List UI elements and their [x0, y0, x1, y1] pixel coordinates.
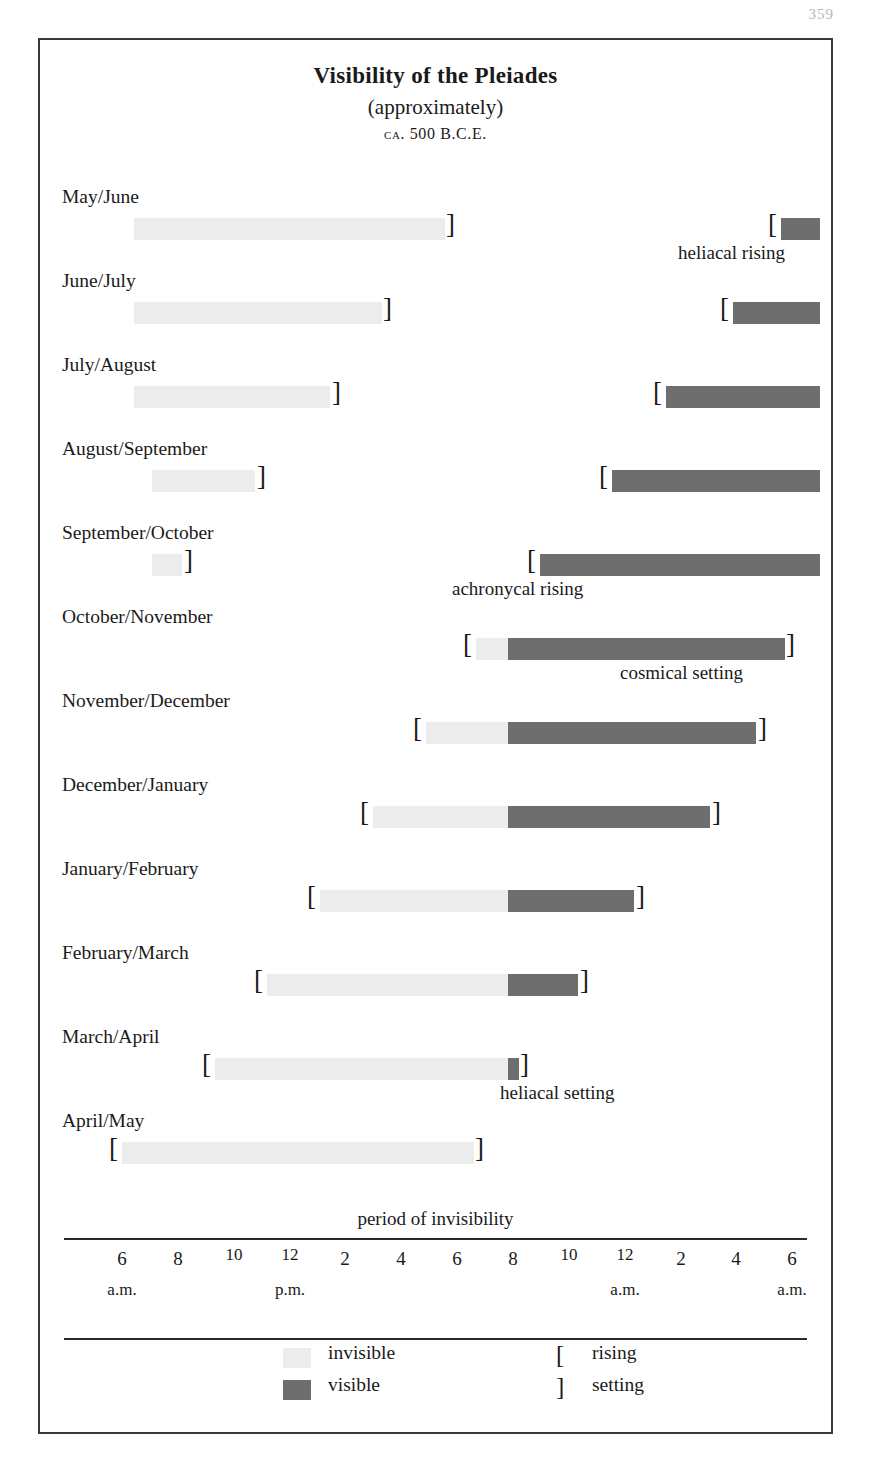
- row-label: November/December: [62, 690, 230, 712]
- plot-area: May/June][heliacal risingJune/July][July…: [40, 186, 831, 1230]
- bar-track: []: [40, 636, 831, 662]
- axis-tick-label: 2: [340, 1248, 350, 1270]
- bar-segment-invisible: [152, 470, 255, 492]
- chart-row: June/July][: [40, 270, 831, 352]
- chart-row: August/September][: [40, 438, 831, 520]
- axis-tick-label: 6: [117, 1248, 127, 1270]
- axis-period-label: p.m.: [275, 1280, 305, 1300]
- setting-bracket: ]: [758, 715, 767, 741]
- row-label: July/August: [62, 354, 156, 376]
- rising-bracket: [: [109, 1135, 118, 1161]
- chart-row: December/January[]: [40, 774, 831, 856]
- row-label: April/May: [62, 1110, 144, 1132]
- legend-swatch-invisible: [283, 1348, 311, 1368]
- chart-subtitle: (approximately): [40, 93, 831, 121]
- rising-bracket: [: [768, 211, 777, 237]
- legend-bracket-rising: [: [556, 1345, 564, 1365]
- chart-row: May/June][heliacal rising: [40, 186, 831, 268]
- row-label: June/July: [62, 270, 136, 292]
- bar-track: ][: [40, 552, 831, 578]
- rising-bracket: [: [720, 295, 729, 321]
- legend: invisible visible [ rising ] setting: [40, 1342, 831, 1422]
- rising-bracket: [: [202, 1051, 211, 1077]
- legend-label-rising: rising: [592, 1342, 636, 1364]
- axis-period-label: a.m.: [107, 1280, 136, 1300]
- bar-segment-visible: [508, 722, 756, 744]
- axis-tick-label: 12: [617, 1245, 634, 1265]
- axis-tick-label: 12: [282, 1245, 299, 1265]
- bar-segment-visible: [666, 386, 820, 408]
- chart-row: November/December[]: [40, 690, 831, 772]
- setting-bracket: ]: [580, 967, 589, 993]
- row-annotation: heliacal rising: [678, 242, 785, 264]
- row-label: January/February: [62, 858, 198, 880]
- bar-segment-invisible: [134, 302, 382, 324]
- setting-bracket: ]: [184, 547, 193, 573]
- setting-bracket: ]: [383, 295, 392, 321]
- chart-row: April/May[]: [40, 1110, 831, 1192]
- bar-segment-invisible: [152, 554, 182, 576]
- row-annotation: cosmical setting: [620, 662, 743, 684]
- setting-bracket: ]: [257, 463, 266, 489]
- row-annotation: achronycal rising: [452, 578, 583, 600]
- axis-tick-label: 8: [173, 1248, 183, 1270]
- bar-track: ][: [40, 300, 831, 326]
- bar-segment-visible: [733, 302, 820, 324]
- legend-label-visible: visible: [328, 1374, 380, 1396]
- row-annotation: heliacal setting: [500, 1082, 614, 1104]
- bar-track: ][: [40, 384, 831, 410]
- chart-row: March/April[]heliacal setting: [40, 1026, 831, 1108]
- bar-segment-visible: [540, 554, 820, 576]
- row-label: May/June: [62, 186, 139, 208]
- legend-swatch-visible: [283, 1380, 311, 1400]
- bar-segment-visible: [508, 890, 634, 912]
- bar-segment-visible: [508, 1058, 519, 1080]
- axis-tick-label: 10: [226, 1245, 243, 1265]
- bar-segment-invisible: [373, 806, 508, 828]
- legend-bracket-setting: ]: [556, 1377, 564, 1397]
- chart-row: January/February[]: [40, 858, 831, 940]
- row-label: December/January: [62, 774, 208, 796]
- chart-row: September/October][achronycal rising: [40, 522, 831, 604]
- bar-track: []: [40, 720, 831, 746]
- row-label: September/October: [62, 522, 214, 544]
- row-label: August/September: [62, 438, 207, 460]
- chart-row: July/August][: [40, 354, 831, 436]
- axis-tick-label: 6: [452, 1248, 462, 1270]
- rising-bracket: [: [463, 631, 472, 657]
- bar-segment-invisible: [122, 1142, 474, 1164]
- axis-note: period of invisibility: [40, 1208, 831, 1230]
- bar-segment-invisible: [134, 218, 445, 240]
- bar-track: []: [40, 804, 831, 830]
- bar-track: ][: [40, 216, 831, 242]
- bar-segment-visible: [612, 470, 820, 492]
- rising-bracket: [: [653, 379, 662, 405]
- rising-bracket: [: [527, 547, 536, 573]
- bar-track: ][: [40, 468, 831, 494]
- rising-bracket: [: [307, 883, 316, 909]
- bar-segment-invisible: [426, 722, 508, 744]
- rising-bracket: [: [599, 463, 608, 489]
- title-block: Visibility of the Pleiades (approximatel…: [40, 40, 831, 143]
- figure-frame: Visibility of the Pleiades (approximatel…: [38, 38, 833, 1434]
- chart-date: ca. 500 B.C.E.: [40, 125, 831, 143]
- rising-bracket: [: [360, 799, 369, 825]
- axis-tick-label: 2: [676, 1248, 686, 1270]
- bar-segment-visible: [508, 806, 710, 828]
- row-label: March/April: [62, 1026, 159, 1048]
- bar-track: []: [40, 972, 831, 998]
- page-number: 359: [809, 6, 835, 23]
- bar-track: []: [40, 888, 831, 914]
- setting-bracket: ]: [712, 799, 721, 825]
- axis-period-label: a.m.: [610, 1280, 639, 1300]
- setting-bracket: ]: [332, 379, 341, 405]
- bar-segment-invisible: [215, 1058, 508, 1080]
- row-label: February/March: [62, 942, 189, 964]
- bar-segment-invisible: [134, 386, 330, 408]
- setting-bracket: ]: [786, 631, 795, 657]
- axis-tick-label: 6: [787, 1248, 797, 1270]
- bar-segment-visible: [508, 974, 578, 996]
- bar-segment-visible: [508, 638, 785, 660]
- bar-track: []: [40, 1140, 831, 1166]
- bar-segment-visible: [781, 218, 820, 240]
